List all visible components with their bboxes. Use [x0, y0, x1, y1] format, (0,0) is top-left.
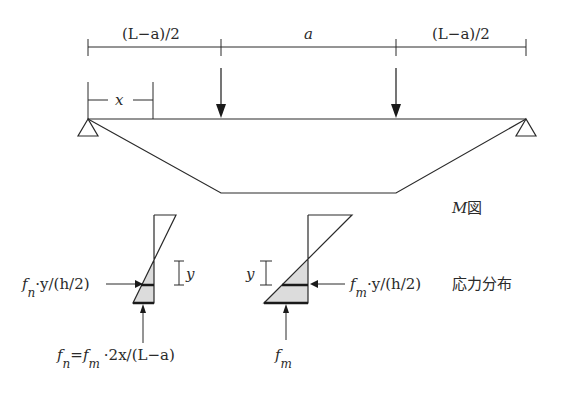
left-y-label: y	[185, 265, 195, 283]
beam-diagram: (L−a)/2 a (L−a)/2 x M図	[0, 0, 562, 395]
stress-section-left	[106, 215, 184, 343]
point-load-left	[216, 68, 226, 118]
dim-middle-span-label: a	[304, 25, 313, 43]
right-arrow-label: fm·y/(h/2)	[349, 275, 421, 300]
pin-support-left-icon	[78, 119, 98, 136]
stress-section-right	[260, 215, 352, 340]
dim-left-span-label: (L−a)/2	[122, 25, 180, 43]
dim-right-span-label: (L−a)/2	[432, 25, 490, 43]
moment-diagram-outline	[88, 119, 526, 193]
left-bottom-formula: fn=fm·2x/(L−a)	[56, 346, 175, 371]
point-load-right	[391, 68, 401, 118]
right-bottom-label: fm	[274, 346, 292, 371]
x-label: x	[115, 91, 124, 109]
pin-support-right-icon	[516, 119, 536, 136]
left-arrow-label: fn·y/(h/2)	[21, 275, 90, 300]
moment-diagram-label: M図	[451, 199, 482, 217]
stress-distribution-caption: 応力分布	[452, 275, 512, 293]
right-y-label: y	[245, 265, 255, 283]
